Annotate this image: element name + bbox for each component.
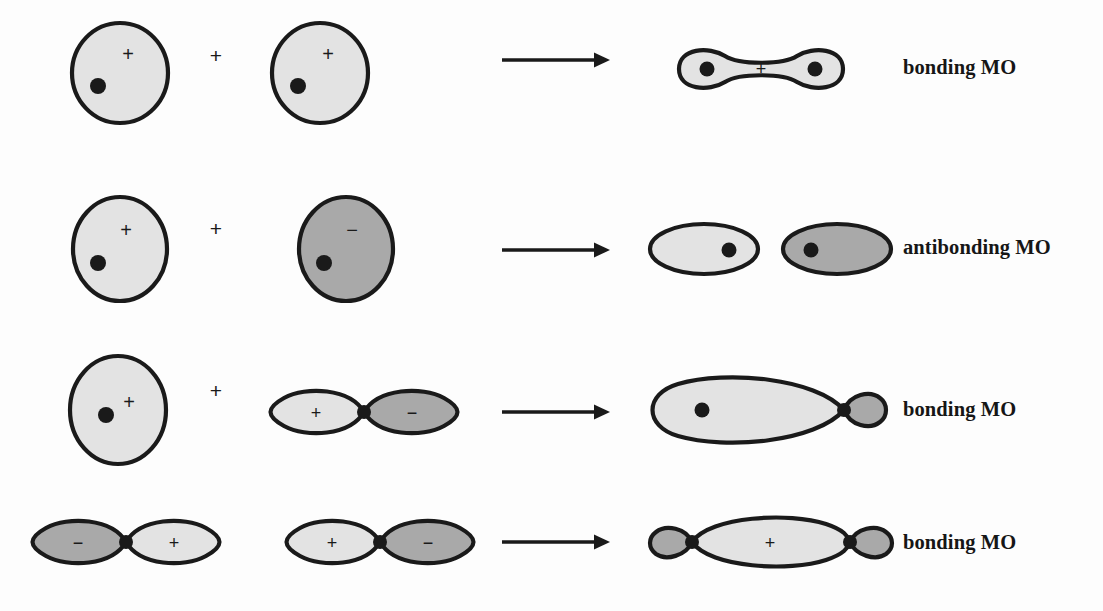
row3-mo-label: bonding MO <box>903 399 1016 420</box>
antibonding-lobe-outline <box>783 224 891 274</box>
sign-plus: + <box>327 533 338 553</box>
operator-plus-row2: + <box>205 218 227 239</box>
reaction-arrow-row1 <box>500 48 612 76</box>
node-dot <box>357 405 371 419</box>
nucleus-dot-left <box>700 62 715 77</box>
row2-mo-label: antibonding MO <box>903 237 1051 258</box>
s-orbital-outline <box>73 197 167 301</box>
arrow-head <box>594 405 610 420</box>
sign-plus: + <box>756 59 767 79</box>
sign-plus: + <box>169 533 180 553</box>
nucleus-dot <box>316 255 332 271</box>
nucleus-dot <box>90 255 106 271</box>
sign-minus: − <box>423 533 434 553</box>
sign-minus: − <box>346 219 358 241</box>
sign-plus: + <box>122 43 134 65</box>
reaction-row-2: + + − antibonding MO <box>0 160 1103 320</box>
sign-plus: + <box>765 533 776 553</box>
operator-plus-row3: + <box>205 380 227 401</box>
sign-plus: + <box>120 219 132 241</box>
reaction-arrow-row3 <box>500 400 612 428</box>
arrow-head <box>594 535 610 550</box>
arrow-head <box>594 243 610 258</box>
node-dot <box>373 535 387 549</box>
nucleus-dot <box>722 243 737 258</box>
row3-reactant1-s-orbital: + <box>58 352 178 468</box>
row1-reactant2-s-orbital: + <box>262 18 378 128</box>
nucleus-dot <box>98 407 114 423</box>
arrow-head <box>594 53 610 68</box>
sign-plus: + <box>311 403 322 423</box>
row4-product-bonding-mo: + <box>648 510 896 574</box>
reaction-arrow-row2 <box>500 238 612 266</box>
operator-plus-row1: + <box>205 45 227 66</box>
row2-product-lobe-light <box>646 220 762 278</box>
row3-product-bonding-mo <box>630 368 892 452</box>
row1-mo-label: bonding MO <box>903 57 1016 78</box>
reaction-row-1: + + + + bonding MO <box>0 0 1103 160</box>
row4-mo-label: bonding MO <box>903 532 1016 553</box>
node-dot <box>837 403 851 417</box>
s-orbital-outline <box>272 23 368 123</box>
nucleus-dot <box>290 78 306 94</box>
nucleus-dot <box>695 403 710 418</box>
node-dot-left <box>685 535 699 549</box>
mo-formation-diagram: + + + + bonding MO <box>0 0 1103 611</box>
reaction-row-4: − + + − + bonding MO <box>0 480 1103 611</box>
s-orbital-outline <box>72 23 168 123</box>
row4-reactant1-p-orbital: − + <box>20 510 232 574</box>
row2-reactant1-s-orbital: + <box>62 193 178 305</box>
nucleus-dot-right <box>808 62 823 77</box>
sign-minus: − <box>73 533 84 553</box>
s-orbital-outline <box>70 356 166 464</box>
row1-product-bonding-mo: + <box>655 40 867 98</box>
antibonding-lobe-outline <box>650 224 758 274</box>
row3-reactant2-p-orbital: + − <box>258 380 470 444</box>
row4-reactant2-p-orbital: + − <box>274 510 486 574</box>
s-orbital-outline <box>299 197 393 301</box>
row2-product-lobe-dark <box>779 220 895 278</box>
sign-plus: + <box>322 43 334 65</box>
row1-reactant1-s-orbital: + <box>62 18 178 128</box>
bonding-lobe-large <box>653 377 845 442</box>
nucleus-dot <box>90 78 106 94</box>
node-dot <box>119 535 133 549</box>
reaction-row-3: + + + − bonding MO <box>0 320 1103 480</box>
reaction-arrow-row4 <box>500 530 612 558</box>
node-dot-right <box>843 535 857 549</box>
row2-reactant2-s-orbital: − <box>288 193 404 305</box>
nucleus-dot <box>804 243 819 258</box>
sign-minus: − <box>407 403 418 423</box>
sign-plus: + <box>123 391 135 413</box>
